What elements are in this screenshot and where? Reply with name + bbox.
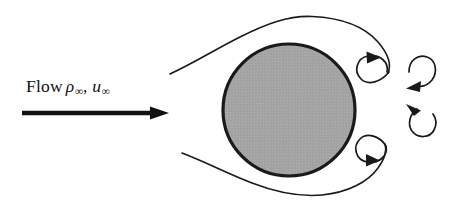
wake-vortex-middle-upper-arc xyxy=(406,56,435,92)
velocity-symbol: u xyxy=(92,76,101,96)
middle-upper-arc-curve xyxy=(409,56,435,86)
density-subscript: ∞ xyxy=(74,85,83,97)
lower-spiral-arrowhead xyxy=(366,154,380,167)
middle-lower-arc-arrowhead xyxy=(406,104,421,116)
wake-vortex-middle-lower-arc xyxy=(406,104,436,137)
upper-spiral-arrowhead xyxy=(367,52,382,64)
wake-vortex-upper-spiral xyxy=(357,52,389,83)
flow-label-word: Flow xyxy=(26,76,63,96)
middle-upper-arc-arrowhead xyxy=(406,81,421,92)
flow-arrow-head xyxy=(150,107,169,120)
freestream-flow-arrow xyxy=(22,107,169,120)
figure-canvas xyxy=(0,0,467,211)
sphere-body xyxy=(223,44,355,176)
flow-past-sphere-figure: Flowρ∞,u∞ xyxy=(0,0,467,211)
flow-label: Flowρ∞,u∞ xyxy=(26,78,110,98)
velocity-subscript: ∞ xyxy=(101,85,110,97)
